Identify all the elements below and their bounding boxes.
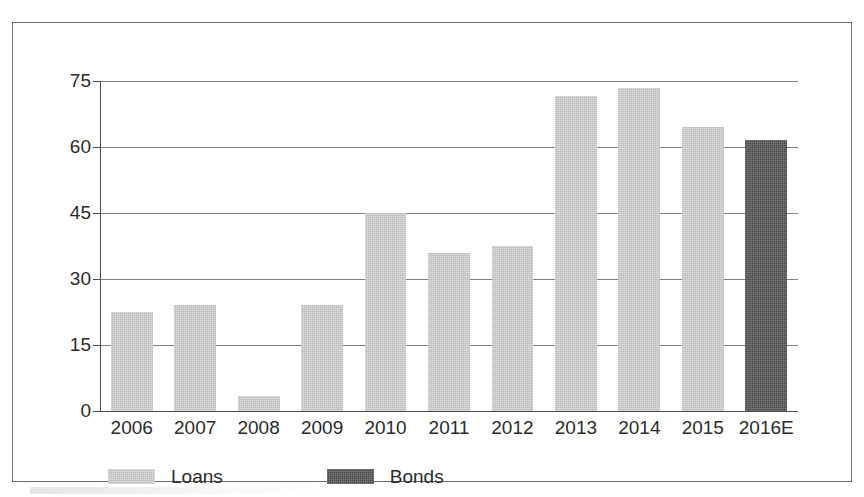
x-axis-label-2012: 2012 <box>481 416 544 440</box>
y-tick-60 <box>93 147 100 148</box>
bar-slot-2011 <box>428 81 470 411</box>
chart-frame: 01530456075 2006200720082009201020112012… <box>12 22 852 482</box>
bar-slot-2013 <box>555 81 597 411</box>
y-axis-label: 15 <box>45 335 91 354</box>
bar-2013[interactable] <box>555 96 597 411</box>
plot-area <box>100 81 798 411</box>
bar-2006[interactable] <box>111 312 153 411</box>
x-axis-labels: 2006200720082009201020112012201320142015… <box>100 416 798 446</box>
x-axis-label-2016E: 2016E <box>735 416 798 440</box>
x-axis-label-2008: 2008 <box>227 416 290 440</box>
bar-2007[interactable] <box>174 305 216 411</box>
legend-swatch-loans <box>108 469 155 484</box>
x-axis-label-2014: 2014 <box>608 416 671 440</box>
bar-slot-2008 <box>238 81 280 411</box>
x-axis-label-2009: 2009 <box>290 416 353 440</box>
x-axis-label-2013: 2013 <box>544 416 607 440</box>
bar-2009[interactable] <box>301 305 343 411</box>
x-axis-label-2010: 2010 <box>354 416 417 440</box>
bar-slot-2007 <box>174 81 216 411</box>
y-axis-line <box>100 81 101 412</box>
y-axis-labels: 01530456075 <box>29 23 91 481</box>
scan-artifact <box>30 487 330 494</box>
y-tick-30 <box>93 279 100 280</box>
y-axis-label: 30 <box>45 269 91 288</box>
bar-2012[interactable] <box>492 246 534 411</box>
y-tick-45 <box>93 213 100 214</box>
legend-label-bonds: Bonds <box>390 467 444 486</box>
bar-2014[interactable] <box>618 88 660 411</box>
y-tick-75 <box>93 81 100 82</box>
x-axis-label-2006: 2006 <box>100 416 163 440</box>
bar-slot-2016E <box>745 81 787 411</box>
legend-label-loans: Loans <box>171 467 223 486</box>
chart-legend: Loans Bonds <box>108 463 444 489</box>
y-axis-label: 0 <box>45 401 91 420</box>
x-axis-label-2007: 2007 <box>163 416 226 440</box>
legend-entry-bonds: Bonds <box>327 467 444 486</box>
bar-slot-2010 <box>365 81 407 411</box>
bar-slot-2014 <box>618 81 660 411</box>
bar-2008[interactable] <box>238 396 280 411</box>
gridline-0 <box>100 411 798 412</box>
bar-slot-2015 <box>682 81 724 411</box>
x-axis-label-2011: 2011 <box>417 416 480 440</box>
x-axis-label-2015: 2015 <box>671 416 734 440</box>
y-tick-0 <box>93 411 100 412</box>
y-axis-label: 75 <box>45 71 91 90</box>
bar-2010[interactable] <box>365 213 407 411</box>
legend-swatch-bonds <box>327 469 374 484</box>
bar-2015[interactable] <box>682 127 724 411</box>
y-axis-label: 60 <box>45 137 91 156</box>
bar-slot-2009 <box>301 81 343 411</box>
legend-entry-loans: Loans <box>108 467 223 486</box>
bar-slot-2006 <box>111 81 153 411</box>
bar-2011[interactable] <box>428 253 470 411</box>
y-tick-15 <box>93 345 100 346</box>
bar-2016E[interactable] <box>745 140 787 411</box>
bar-slot-2012 <box>492 81 534 411</box>
y-axis-label: 45 <box>45 203 91 222</box>
